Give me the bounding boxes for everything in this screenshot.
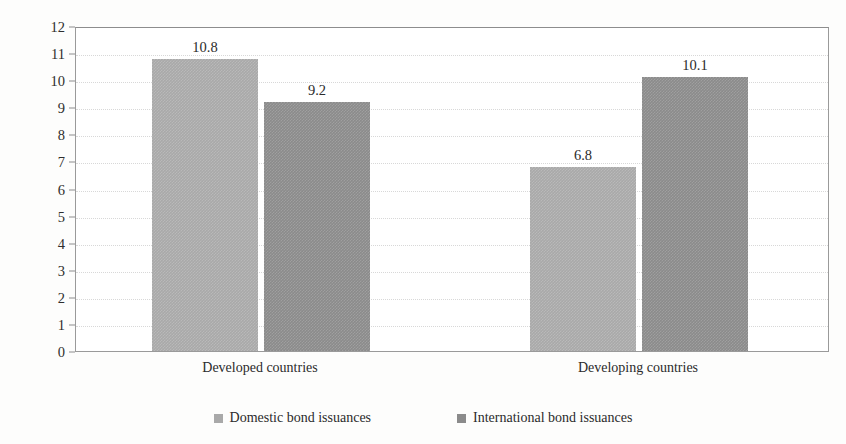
legend-swatch-icon [457,414,466,423]
bar [530,167,636,351]
y-axis-tick-label: 3 [58,264,65,279]
bar [642,77,748,351]
bar-value-label: 9.2 [264,82,370,99]
legend-label: International bond issuances [473,410,632,426]
y-axis-tick-label: 5 [58,209,65,224]
y-axis-tick-label: 12 [51,20,66,35]
x-axis-category-label: Developing countries [488,360,788,376]
y-axis-tick-label: 8 [58,128,65,143]
y-axis-tick-label: 1 [58,318,65,333]
y-axis-tick-labels: 1211109876543210 [0,27,75,352]
y-axis-tick-label: 11 [51,47,65,62]
bar-value-label: 10.8 [152,39,258,56]
x-axis-category-label: Developed countries [110,360,410,376]
y-axis-tick-label: 9 [58,101,65,116]
chart-page: Maturity in years 1211109876543210 10.89… [0,0,846,444]
legend-item[interactable]: International bond issuances [457,410,632,426]
legend-label: Domestic bond issuances [230,410,372,426]
legend-swatch-icon [214,414,223,423]
y-axis-tick-label: 10 [51,74,66,89]
y-axis-tick-label: 2 [58,291,65,306]
bar [152,59,258,352]
y-axis-tick-label: 0 [58,345,65,360]
bar-value-label: 10.1 [642,57,748,74]
y-axis-tick-label: 7 [58,155,65,170]
y-axis-tick-label: 4 [58,236,65,251]
plot-area: 10.89.26.810.1 [75,27,829,352]
bar [264,102,370,351]
legend-item[interactable]: Domestic bond issuances [214,410,372,426]
y-axis-tick-label: 6 [58,182,65,197]
bar-value-label: 6.8 [530,147,636,164]
chart-legend: Domestic bond issuancesInternational bon… [0,410,846,426]
